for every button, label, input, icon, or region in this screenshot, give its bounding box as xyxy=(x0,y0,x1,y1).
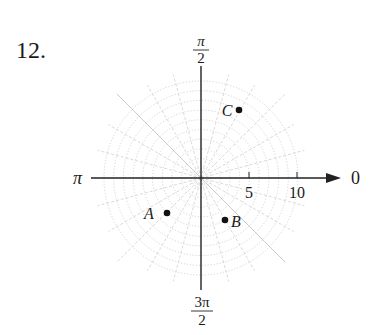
angle-label-zero: 0 xyxy=(351,168,360,188)
grid-spoke xyxy=(98,178,201,206)
point-c-label: C xyxy=(222,102,233,119)
grid-spoke xyxy=(108,178,201,232)
angle-label-three-pi-over-2: 3π 2 xyxy=(191,294,213,328)
angle-label-pi: π xyxy=(73,168,83,188)
grid-spoke xyxy=(201,85,255,178)
point-b-marker xyxy=(222,217,229,224)
tick-label-10: 10 xyxy=(289,184,305,201)
grid-spoke xyxy=(173,178,201,281)
arrow-head-icon xyxy=(326,173,341,183)
point-c-marker xyxy=(236,107,243,114)
grid-spoke xyxy=(148,85,202,178)
grid-spoke xyxy=(117,178,201,262)
grid-spoke xyxy=(173,75,201,178)
pi-over-2-denominator: 2 xyxy=(197,50,205,66)
three-pi-over-2-denominator: 2 xyxy=(198,312,206,328)
point-a: A xyxy=(143,205,170,222)
point-a-marker xyxy=(164,210,171,217)
grid-spoke xyxy=(201,75,229,178)
grid-spoke xyxy=(117,94,201,178)
point-a-label: A xyxy=(143,205,154,222)
grid-spoke xyxy=(108,125,201,179)
point-c: C xyxy=(222,102,243,119)
grid-spoke xyxy=(98,150,201,178)
grid-spoke xyxy=(201,178,229,281)
polar-plot: 5 10 0 π π 2 3π 2 A B C xyxy=(0,0,374,335)
three-pi-over-2-numerator: 3π xyxy=(194,294,210,310)
angle-label-pi-over-2: π 2 xyxy=(193,33,209,66)
grid-spoke xyxy=(148,178,202,271)
pi-over-2-numerator: π xyxy=(197,33,205,49)
tick-label-5: 5 xyxy=(245,184,253,201)
grid-spoke xyxy=(201,150,304,178)
grid-spoke xyxy=(201,178,285,262)
point-b-label: B xyxy=(231,213,241,230)
grid-spoke xyxy=(201,94,285,178)
grid-spoke xyxy=(201,125,294,179)
point-b: B xyxy=(222,213,241,230)
